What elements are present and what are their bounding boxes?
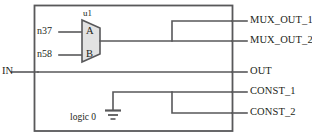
ground-icon (105, 111, 121, 120)
output-port-label-const-2: CONST_2 (250, 107, 296, 118)
net-label-n37: n37 (37, 26, 52, 36)
wire-mux-out-1 (172, 21, 232, 41)
output-port-label-mux-out-2: MUX_OUT_2 (250, 35, 312, 46)
input-port-label-in: IN (2, 66, 13, 77)
net-label-n58: n58 (37, 49, 52, 59)
mux-pin-b-label: B (86, 49, 93, 60)
output-port-label-mux-out-1: MUX_OUT_1 (250, 15, 312, 26)
wire-const-2 (172, 92, 232, 113)
mux-pin-a-label: A (86, 26, 94, 37)
output-port-label-const-1: CONST_1 (250, 86, 296, 97)
ground-label: logic 0 (70, 113, 96, 123)
instance-name-u1: u1 (83, 9, 92, 18)
schematic-diagram: u1 A B n37 n58 IN logic 0 MUX_OUT_1 MUX_… (0, 0, 312, 137)
output-port-label-out: OUT (250, 66, 272, 77)
module-boundary (35, 6, 233, 132)
